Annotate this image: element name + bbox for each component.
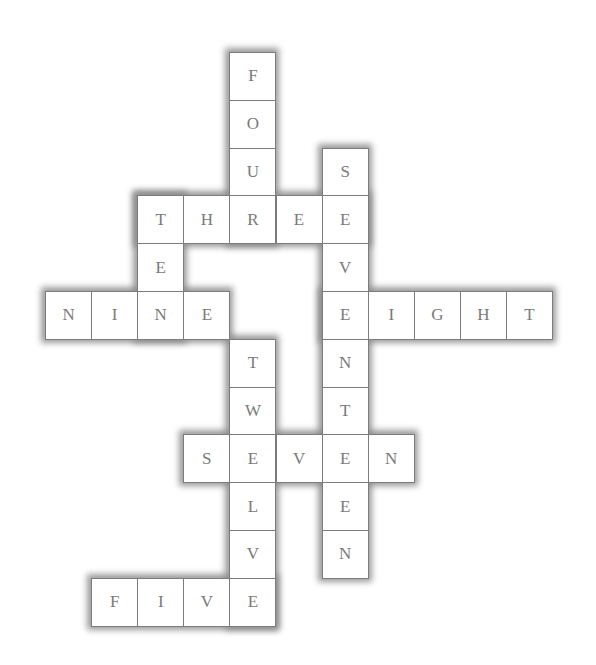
crossword-cell[interactable]: N bbox=[322, 530, 369, 579]
cell-letter: I bbox=[158, 592, 164, 612]
crossword-cell[interactable]: W bbox=[229, 387, 276, 436]
cell-letter: G bbox=[431, 305, 443, 325]
cell-letter: H bbox=[477, 305, 489, 325]
crossword-board: FOURTHEEENSVENTEENNIEIGHTTWELVESVNFIV bbox=[0, 0, 596, 665]
cell-letter: R bbox=[247, 210, 258, 230]
cell-letter: E bbox=[340, 210, 350, 230]
cell-letter: L bbox=[248, 497, 258, 517]
crossword-cell[interactable]: I bbox=[368, 291, 415, 340]
crossword-cell[interactable]: N bbox=[322, 339, 369, 388]
cell-letter: T bbox=[248, 353, 258, 373]
crossword-cell[interactable]: F bbox=[91, 578, 138, 627]
crossword-cell[interactable]: E bbox=[322, 291, 369, 340]
cell-letter: S bbox=[340, 162, 349, 182]
crossword-cell[interactable]: H bbox=[183, 195, 230, 244]
crossword-cell[interactable]: L bbox=[229, 482, 276, 531]
crossword-cell[interactable]: F bbox=[229, 52, 276, 101]
cell-letter: E bbox=[340, 497, 350, 517]
crossword-cell[interactable]: U bbox=[229, 148, 276, 197]
cell-letter: F bbox=[248, 66, 257, 86]
crossword-cell[interactable]: E bbox=[322, 482, 369, 531]
crossword-cell[interactable]: T bbox=[229, 339, 276, 388]
crossword-cell[interactable]: V bbox=[322, 243, 369, 292]
crossword-cell[interactable]: E bbox=[229, 434, 276, 483]
cell-letter: V bbox=[293, 449, 305, 469]
cell-letter: N bbox=[339, 544, 351, 564]
cell-letter: N bbox=[385, 449, 397, 469]
crossword-cell[interactable]: T bbox=[137, 195, 184, 244]
crossword-cell[interactable]: E bbox=[229, 578, 276, 627]
cell-letter: F bbox=[110, 592, 119, 612]
cell-letter: E bbox=[202, 305, 212, 325]
crossword-cell[interactable]: N bbox=[137, 291, 184, 340]
crossword-cell[interactable]: E bbox=[322, 434, 369, 483]
cell-letter: N bbox=[155, 305, 167, 325]
cell-letter: I bbox=[388, 305, 394, 325]
crossword-cell[interactable]: E bbox=[322, 195, 369, 244]
crossword-cell[interactable]: S bbox=[322, 148, 369, 197]
crossword-cell[interactable]: N bbox=[45, 291, 92, 340]
crossword-cell[interactable]: E bbox=[137, 243, 184, 292]
crossword-cell[interactable]: R bbox=[229, 195, 276, 244]
crossword-cell[interactable]: V bbox=[276, 434, 323, 483]
cell-letter: O bbox=[247, 114, 259, 134]
cell-letter: E bbox=[294, 210, 304, 230]
cell-letter: E bbox=[156, 258, 166, 278]
cell-letter: E bbox=[248, 449, 258, 469]
cell-letter: V bbox=[339, 258, 351, 278]
crossword-cell[interactable]: V bbox=[183, 578, 230, 627]
cell-letter: E bbox=[340, 305, 350, 325]
crossword-cell[interactable]: T bbox=[506, 291, 553, 340]
crossword-cell[interactable]: H bbox=[460, 291, 507, 340]
crossword-cell[interactable]: G bbox=[414, 291, 461, 340]
crossword-cell[interactable]: I bbox=[137, 578, 184, 627]
cell-letter: E bbox=[340, 449, 350, 469]
cell-letter: V bbox=[201, 592, 213, 612]
cell-letter: N bbox=[62, 305, 74, 325]
crossword-cell[interactable]: V bbox=[229, 530, 276, 579]
cell-letter: V bbox=[247, 544, 259, 564]
cell-letter: S bbox=[202, 449, 211, 469]
cell-letter: I bbox=[112, 305, 118, 325]
crossword-cell[interactable]: T bbox=[322, 387, 369, 436]
crossword-cell[interactable]: N bbox=[368, 434, 415, 483]
crossword-cell[interactable]: E bbox=[276, 195, 323, 244]
cell-letter: E bbox=[248, 592, 258, 612]
crossword-cell[interactable]: E bbox=[183, 291, 230, 340]
cell-letter: H bbox=[201, 210, 213, 230]
crossword-cell[interactable]: O bbox=[229, 100, 276, 149]
crossword-cell[interactable]: I bbox=[91, 291, 138, 340]
crossword-cell[interactable]: S bbox=[183, 434, 230, 483]
cell-letter: W bbox=[245, 401, 261, 421]
cell-letter: N bbox=[339, 353, 351, 373]
cell-letter: T bbox=[156, 210, 166, 230]
cell-letter: T bbox=[524, 305, 534, 325]
cell-letter: T bbox=[340, 401, 350, 421]
cell-letter: U bbox=[247, 162, 259, 182]
